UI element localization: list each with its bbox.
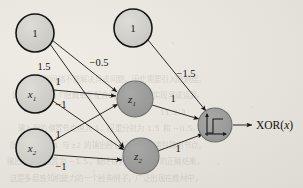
network-diagram-canvas: 1 1 x1 x2 z1 bbox=[0, 0, 303, 188]
input-node-x1: x1 bbox=[16, 75, 54, 113]
input-node-x2-subscript: 2 bbox=[33, 149, 37, 157]
weight-label-bias1-z2: 1.5 bbox=[37, 61, 50, 72]
edge-x2-z2 bbox=[54, 155, 122, 160]
bias-node-top-middle-label: 1 bbox=[130, 22, 136, 34]
weight-label-z1-output: 1 bbox=[170, 93, 175, 104]
weight-label-x2-z2: −1 bbox=[55, 161, 66, 172]
edge-z1-output bbox=[152, 105, 199, 119]
input-node-x1-subscript: 1 bbox=[33, 95, 37, 103]
hidden-node-z1: z1 bbox=[117, 81, 153, 117]
weight-label-x1-z2: −1 bbox=[55, 99, 66, 110]
output-node bbox=[198, 108, 232, 142]
hidden-node-z1-subscript: 1 bbox=[132, 100, 136, 108]
bias-node-top-left-label: 1 bbox=[32, 27, 38, 39]
bias-node-top-left: 1 bbox=[16, 14, 54, 52]
weight-label-x1-z1: 1 bbox=[55, 76, 60, 87]
weight-label-z2-output: 1 bbox=[175, 143, 180, 154]
hidden-node-z2-subscript: 2 bbox=[138, 157, 142, 165]
edge-x1-z1 bbox=[54, 90, 116, 96]
output-label-function: XOR( bbox=[256, 119, 284, 132]
weight-label-x2-z1: 1 bbox=[55, 129, 60, 140]
weight-label-bias1-z1: −0.5 bbox=[89, 57, 108, 68]
xor-network-figure: 一个单层网络不能解决异或问题，因此需要引入隐藏层。 如图所示，两个隐藏单元配合阈… bbox=[0, 0, 303, 188]
output-label: XOR(x) bbox=[256, 119, 293, 132]
bias-node-top-middle: 1 bbox=[114, 9, 152, 47]
output-label-paren: ) bbox=[289, 119, 293, 132]
weight-label-bias2-output: −1.5 bbox=[176, 68, 195, 79]
hidden-node-z2: z2 bbox=[123, 138, 159, 174]
input-node-x2: x2 bbox=[16, 129, 54, 167]
